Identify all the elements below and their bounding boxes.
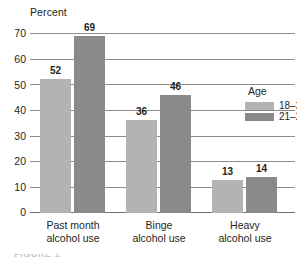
x-axis-label-heavy-line2: alcohol use [218,232,271,244]
bar-chart-figure: Percent 70 60 50 40 30 20 10 0 52 69 36 [0,0,297,261]
value-label-past-month-21-25: 69 [74,22,105,33]
y-tick-30: 30 [2,130,26,142]
y-tick-50: 50 [2,79,26,91]
bar-past-month-18-20 [40,79,71,213]
y-tick-60: 60 [2,53,26,65]
plot-area: 52 69 36 46 13 14 Age 18–20 21–25 [30,33,295,213]
legend-swatch-21-25 [245,113,274,121]
bar-heavy-18-20 [212,180,243,213]
y-tick-0: 0 [2,206,26,218]
x-axis-label-past-month-line1: Past month [46,219,99,231]
y-axis-title: Percent [30,6,67,18]
bar-binge-18-20 [126,120,157,213]
legend-title: Age [248,85,267,97]
value-label-past-month-18-20: 52 [40,65,71,76]
legend-label-18-20: 18–20 [279,100,297,111]
value-label-heavy-21-25: 14 [246,163,277,174]
bar-heavy-21-25 [246,177,277,213]
value-label-heavy-18-20: 13 [212,166,243,177]
y-tick-70: 70 [2,27,26,39]
x-axis-label-binge-line1: Binge [146,219,173,231]
x-axis-label-heavy: Heavy alcohol use [190,219,297,244]
bar-binge-21-25 [160,95,191,213]
legend-label-21-25: 21–25 [279,111,297,122]
value-label-binge-18-20: 36 [126,106,157,117]
x-axis-label-heavy-line1: Heavy [230,219,260,231]
value-label-binge-21-25: 46 [160,81,191,92]
legend-swatch-18-20 [245,102,274,110]
gridline-60 [30,59,295,60]
gridline-70 [30,33,295,34]
figure-caption-text: FIGURE 1 [14,254,134,259]
figure-caption-cropped: FIGURE 1 [14,254,134,261]
y-tick-20: 20 [2,155,26,167]
x-axis-label-past-month-line2: alcohol use [46,232,99,244]
y-tick-40: 40 [2,104,26,116]
bar-past-month-21-25 [74,36,105,213]
x-axis-label-binge-line2: alcohol use [132,232,185,244]
y-tick-10: 10 [2,181,26,193]
